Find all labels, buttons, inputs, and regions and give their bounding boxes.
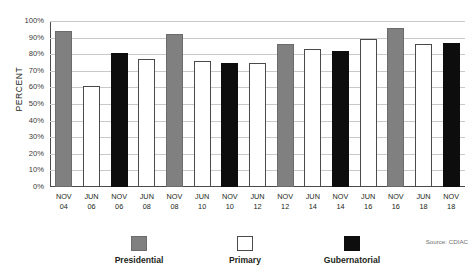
y-axis-tick: 60% [16, 83, 44, 91]
bar [55, 31, 72, 187]
y-axis-tick: 70% [16, 67, 44, 75]
y-axis-tick: 20% [16, 150, 44, 158]
x-axis-tick: NOV10 [216, 192, 244, 211]
x-axis-tick-year: 10 [188, 202, 216, 212]
legend-item-presidential: Presidential [79, 236, 199, 265]
x-axis-tick-month: JUN [354, 192, 382, 202]
x-axis-tick: NOV04 [50, 192, 78, 211]
bar-chart: PERCENT 0%10%20%30%40%50%60%70%80%90%100… [0, 0, 474, 280]
source-note: Source: CDIAC [426, 238, 468, 245]
legend-item-primary: Primary [185, 236, 305, 265]
x-axis-tick-year: 14 [299, 202, 327, 212]
x-axis-tick-month: NOV [271, 192, 299, 202]
legend-swatch-icon [131, 236, 147, 251]
x-axis-tick-month: NOV [382, 192, 410, 202]
x-axis-tick: JUN08 [133, 192, 161, 211]
x-axis-tick-month: NOV [161, 192, 189, 202]
x-axis-tick-year: 18 [410, 202, 438, 212]
x-axis-tick-year: 08 [133, 202, 161, 212]
x-axis-tick-year: 04 [50, 202, 78, 212]
x-axis-tick: NOV08 [161, 192, 189, 211]
x-axis-tick-month: NOV [216, 192, 244, 202]
bar [166, 34, 183, 187]
bars-layer [50, 21, 465, 187]
x-axis-tick-year: 14 [327, 202, 355, 212]
bar [83, 86, 100, 187]
x-axis-tick-month: NOV [105, 192, 133, 202]
x-axis-tick-month: JUN [244, 192, 272, 202]
y-axis-tick: 80% [16, 50, 44, 58]
y-axis-tick: 30% [16, 133, 44, 141]
x-axis-tick-month: JUN [410, 192, 438, 202]
x-axis-tick-month: JUN [299, 192, 327, 202]
bar [443, 43, 460, 187]
bar [332, 51, 349, 187]
legend-swatch-icon [344, 236, 360, 251]
bar [360, 39, 377, 187]
chart-legend: PresidentialPrimaryGubernatorial [0, 236, 474, 270]
legend-label: Primary [185, 255, 305, 265]
bar [249, 63, 266, 188]
x-axis-tick-year: 16 [354, 202, 382, 212]
x-axis-tick: NOV18 [437, 192, 465, 211]
y-axis-tick: 40% [16, 117, 44, 125]
x-axis-tick-year: 12 [271, 202, 299, 212]
bar [111, 53, 128, 187]
bar [304, 49, 321, 187]
x-axis-tick-month: JUN [133, 192, 161, 202]
x-axis-tick-month: NOV [50, 192, 78, 202]
x-axis-tick-labels: NOV04JUN06NOV06JUN08NOV08JUN10NOV10JUN12… [50, 192, 465, 218]
bar [387, 28, 404, 187]
x-axis-tick: JUN18 [410, 192, 438, 211]
x-axis-tick-year: 06 [78, 202, 106, 212]
y-axis-tick: 100% [16, 17, 44, 25]
y-axis-tick: 10% [16, 166, 44, 174]
legend-label: Presidential [79, 255, 199, 265]
y-axis-tick: 0% [16, 183, 44, 191]
x-axis-tick-year: 10 [216, 202, 244, 212]
x-axis-tick: NOV12 [271, 192, 299, 211]
x-axis-tick-year: 12 [244, 202, 272, 212]
x-axis-tick: JUN06 [78, 192, 106, 211]
bar [277, 44, 294, 187]
bar [138, 59, 155, 187]
x-axis-tick-year: 08 [161, 202, 189, 212]
legend-label: Gubernatorial [292, 255, 412, 265]
y-axis-tick: 90% [16, 34, 44, 42]
x-axis-tick: NOV14 [327, 192, 355, 211]
bar [221, 63, 238, 188]
x-axis-tick: NOV16 [382, 192, 410, 211]
plot-area [50, 21, 465, 187]
x-axis-tick: NOV06 [105, 192, 133, 211]
legend-swatch-icon [237, 236, 253, 251]
x-axis-tick-month: NOV [327, 192, 355, 202]
x-axis-tick-year: 06 [105, 202, 133, 212]
y-axis-tick-labels: 0%10%20%30%40%50%60%70%80%90%100% [16, 21, 44, 187]
legend-item-gubernatorial: Gubernatorial [292, 236, 412, 265]
x-axis-tick-year: 18 [437, 202, 465, 212]
x-axis-tick-month: JUN [78, 192, 106, 202]
x-axis-tick-month: NOV [437, 192, 465, 202]
bar [194, 61, 211, 187]
x-axis-tick: JUN14 [299, 192, 327, 211]
x-axis-tick-year: 16 [382, 202, 410, 212]
x-axis-tick: JUN16 [354, 192, 382, 211]
bar [415, 44, 432, 187]
x-axis-tick-month: JUN [188, 192, 216, 202]
x-axis-tick: JUN10 [188, 192, 216, 211]
x-axis-tick: JUN12 [244, 192, 272, 211]
y-axis-tick: 50% [16, 100, 44, 108]
